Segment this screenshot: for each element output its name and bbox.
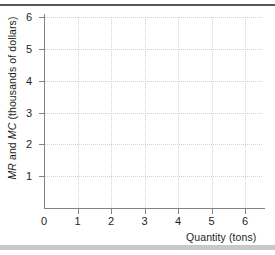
- y-axis-tick-label: 5: [16, 44, 32, 55]
- y-axis-tick: [39, 17, 45, 18]
- x-axis-tick: [245, 208, 246, 214]
- y-axis-tick: [39, 176, 45, 177]
- y-axis-title-symbol-mc: MC: [6, 123, 18, 140]
- gridline-vertical: [178, 17, 179, 208]
- y-axis-tick-label: 3: [16, 108, 32, 119]
- y-axis-title-symbol-mr: MR: [6, 163, 18, 180]
- y-axis-tick-label: 1: [16, 171, 32, 182]
- x-axis-tick-label: 2: [102, 216, 120, 227]
- x-axis-tick-label: 3: [136, 216, 154, 227]
- x-axis-tick: [145, 208, 146, 214]
- x-axis-tick: [111, 208, 112, 214]
- y-axis-tick: [39, 49, 45, 50]
- gridline-vertical: [78, 17, 79, 208]
- y-axis-tick: [39, 113, 45, 114]
- chart-figure: 6 5 4 3 2 1 0 1 2 3 4 5 6 MR and MC (tho…: [0, 0, 275, 255]
- y-axis-tick: [39, 81, 45, 82]
- plot-area: [44, 17, 262, 208]
- y-axis-tick-label: 4: [16, 76, 32, 87]
- y-axis-tick-label: 2: [16, 139, 32, 150]
- x-axis-tick-label: 1: [69, 216, 87, 227]
- y-axis-title: MR and MC (thousands of dollars): [6, 14, 18, 182]
- y-axis-line: [44, 14, 45, 209]
- x-axis-tick-label: 4: [169, 216, 187, 227]
- x-axis-title: Quantity (tons): [186, 231, 256, 243]
- gridline-vertical: [111, 17, 112, 208]
- y-axis-tick: [39, 144, 45, 145]
- gridline-vertical: [212, 17, 213, 208]
- y-axis-tick-label: 6: [16, 12, 32, 23]
- x-axis-tick: [212, 208, 213, 214]
- x-axis-tick-label: 0: [35, 216, 53, 227]
- x-axis-tick-label: 6: [236, 216, 254, 227]
- gridline-vertical: [245, 17, 246, 208]
- top-rule-divider: [0, 4, 275, 6]
- x-axis-tick: [78, 208, 79, 214]
- bottom-band-divider: [0, 245, 275, 250]
- x-axis-tick: [178, 208, 179, 214]
- gridline-vertical: [145, 17, 146, 208]
- y-axis-title-units: (thousands of dollars): [6, 16, 18, 122]
- y-axis-title-conjunction: and: [6, 139, 18, 163]
- x-axis-tick-label: 5: [203, 216, 221, 227]
